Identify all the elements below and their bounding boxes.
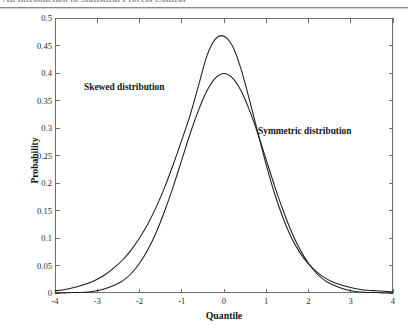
x-tick-label: -3 <box>82 296 112 306</box>
x-tick-label: 0 <box>209 296 239 306</box>
x-tick-label: 1 <box>251 296 281 306</box>
figure-page: An Introduction to Statistical Process C… <box>0 0 408 326</box>
x-tick-label: 4 <box>378 296 408 306</box>
y-tick-label: 0.45 <box>18 41 52 51</box>
x-tick-label: -2 <box>125 296 155 306</box>
x-tick-label: -1 <box>167 296 197 306</box>
chart-canvas <box>0 10 408 326</box>
y-tick-label: 0.5 <box>18 13 52 23</box>
running-header: An Introduction to Statistical Process C… <box>0 0 408 7</box>
y-tick-label: 0.4 <box>18 68 52 78</box>
x-tick-label: 2 <box>294 296 324 306</box>
x-axis-tick-labels: -4-3-2-101234 <box>0 296 408 310</box>
x-tick-label: -4 <box>40 296 70 306</box>
probability-distribution-chart: 00.050.10.150.20.250.30.350.40.450.5 -4-… <box>0 10 408 326</box>
y-axis-title: Probability <box>29 101 40 221</box>
y-tick-label: 0.1 <box>18 233 52 243</box>
y-tick-label: 0.05 <box>18 261 52 271</box>
curve-symmetric <box>55 74 393 293</box>
symmetric-distribution-label: Symmetric distribution <box>258 126 352 136</box>
skewed-distribution-label: Skewed distribution <box>84 82 165 92</box>
header-divider-shadow <box>0 8 408 9</box>
x-tick-label: 3 <box>336 296 366 306</box>
x-axis-title: Quantile <box>55 310 393 321</box>
running-header-text: An Introduction to Statistical Process C… <box>3 0 403 4</box>
